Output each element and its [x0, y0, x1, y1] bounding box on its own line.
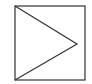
play-icon-diagram: [0, 0, 92, 84]
